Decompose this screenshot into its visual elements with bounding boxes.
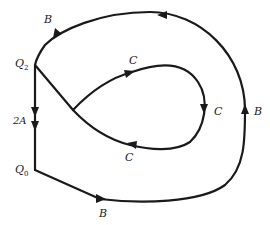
label-q0-sub: 0 [24, 170, 28, 178]
label-b-right: B [254, 106, 262, 117]
arrow-down-icon [31, 107, 39, 117]
label-q2-sub: 2 [24, 64, 28, 72]
arrow-right-icon [124, 70, 135, 78]
label-b-top: B [44, 14, 52, 25]
arrow-down-icon [31, 121, 39, 131]
label-q2: Q2 [15, 58, 29, 72]
state-diagram [0, 0, 270, 225]
arrow-down-icon [200, 104, 208, 114]
label-2a: 2A [13, 116, 27, 126]
label-q0: Q0 [15, 164, 29, 178]
edge-inner-loop [73, 65, 205, 149]
label-q0-main: Q [15, 163, 24, 176]
label-q2-main: Q [15, 57, 24, 70]
label-c-upper: C [129, 55, 137, 66]
label-b-bottom: B [99, 208, 107, 219]
label-c-right: C [214, 106, 222, 117]
arrow-right-icon [96, 194, 106, 203]
label-c-lower: C [125, 152, 133, 163]
arrow-up-icon [241, 104, 249, 114]
